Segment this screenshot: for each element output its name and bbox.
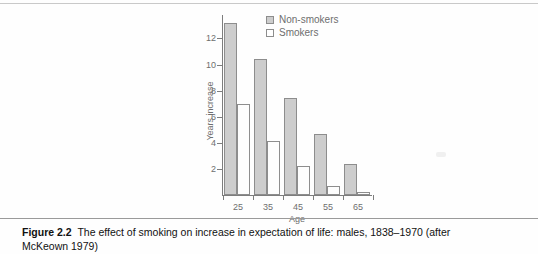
figure-container: 24681012 2535455565 Age Years increase N… — [0, 0, 538, 254]
legend-swatch-non-smokers-icon — [266, 16, 274, 24]
bar-non-smokers-25 — [224, 23, 237, 195]
x-tick-mark — [223, 195, 224, 200]
top-divider-rule — [0, 3, 538, 4]
y-tick-mark — [217, 65, 223, 66]
y-tick-mark — [217, 143, 223, 144]
figure-caption-text: The effect of smoking on increase in exp… — [22, 226, 450, 252]
bar-non-smokers-55 — [314, 134, 327, 195]
x-tick-mark — [283, 195, 284, 200]
x-axis-line — [222, 195, 372, 196]
bar-non-smokers-65 — [344, 164, 357, 195]
legend-item-non-smokers: Non-smokers — [266, 14, 338, 25]
page-artifact — [436, 152, 446, 157]
x-tick-mark — [313, 195, 314, 200]
x-tick-mark — [343, 195, 344, 200]
figure-caption: Figure 2.2 The effect of smoking on incr… — [22, 225, 492, 253]
legend-label-smokers: Smokers — [279, 27, 318, 38]
bar-smokers-25 — [237, 104, 250, 195]
y-tick-mark — [217, 91, 223, 92]
y-tick-label: 12 — [196, 33, 216, 43]
bar-smokers-35 — [267, 141, 280, 195]
legend-item-smokers: Smokers — [266, 27, 338, 38]
legend-swatch-smokers-icon — [266, 29, 274, 37]
x-tick-mark — [373, 195, 374, 200]
x-tick-label: 25 — [226, 202, 250, 212]
chart-legend: Non-smokers Smokers — [266, 14, 338, 40]
bar-smokers-65 — [357, 192, 370, 195]
figure-caption-label: Figure 2.2 — [22, 226, 72, 238]
bar-non-smokers-35 — [254, 59, 267, 195]
bar-smokers-55 — [327, 186, 340, 195]
y-tick-mark — [217, 38, 223, 39]
bar-smokers-45 — [297, 166, 310, 195]
bar-chart: 24681012 2535455565 Age Years increase N… — [196, 6, 436, 218]
caption-divider-rule — [0, 218, 538, 219]
y-tick-mark — [217, 169, 223, 170]
bar-non-smokers-45 — [284, 98, 297, 195]
x-tick-label: 35 — [256, 202, 280, 212]
x-axis-title: Age — [222, 214, 372, 224]
legend-label-non-smokers: Non-smokers — [279, 14, 338, 25]
x-tick-label: 55 — [316, 202, 340, 212]
y-axis-title: Years increase — [205, 51, 215, 171]
y-tick-mark — [217, 117, 223, 118]
x-tick-label: 45 — [286, 202, 310, 212]
x-tick-label: 65 — [346, 202, 370, 212]
x-tick-mark — [253, 195, 254, 200]
